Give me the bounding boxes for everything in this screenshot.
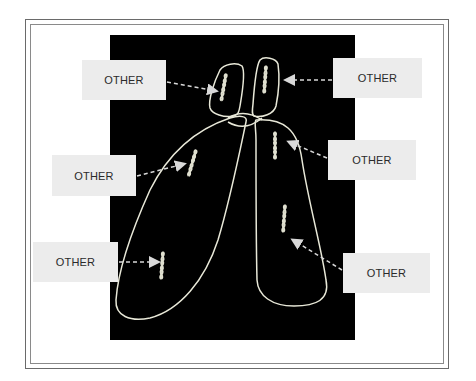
chromosome-arm-top-left bbox=[210, 64, 244, 117]
label-bottom-left: OTHER bbox=[33, 242, 118, 282]
dna-helix-icon bbox=[220, 74, 227, 101]
dna-helix-icon bbox=[187, 150, 197, 177]
label-top-right: OTHER bbox=[333, 58, 422, 98]
label-bottom-right: OTHER bbox=[343, 253, 430, 293]
label-top-left: OTHER bbox=[82, 60, 166, 100]
arrow-middle-left bbox=[137, 164, 184, 176]
chromosome-arm-bottom-left bbox=[116, 116, 246, 319]
dna-helix-icon bbox=[282, 205, 286, 232]
dna-helix-icon bbox=[160, 252, 164, 279]
dna-helix-icon bbox=[274, 132, 276, 159]
label-middle-left: OTHER bbox=[52, 155, 136, 196]
dna-helix-icon bbox=[263, 66, 267, 93]
arrow-top-left bbox=[167, 82, 216, 91]
chromosome-arm-bottom-right bbox=[255, 120, 327, 306]
label-middle-right: OTHER bbox=[328, 140, 416, 180]
arrow-middle-right bbox=[289, 142, 327, 158]
arrow-bottom-right bbox=[293, 240, 342, 270]
